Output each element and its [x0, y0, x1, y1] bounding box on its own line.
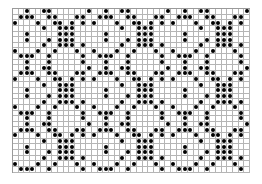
dot-pattern-chart	[12, 8, 250, 173]
grid-cell	[244, 167, 250, 173]
pattern-grid	[12, 8, 250, 173]
